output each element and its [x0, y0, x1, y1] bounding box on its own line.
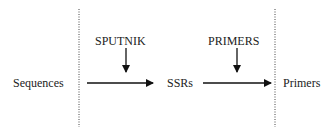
- primers-node: Primers: [283, 76, 320, 90]
- flow-diagram-canvas: [0, 0, 331, 138]
- sputnik-label: SPUTNIK: [95, 34, 146, 48]
- ssrs-node: SSRs: [167, 76, 193, 90]
- primers-tool-label: PRIMERS: [208, 34, 259, 48]
- sequences-node: Sequences: [13, 76, 64, 90]
